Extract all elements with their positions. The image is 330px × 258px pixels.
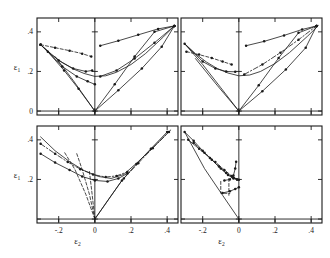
data-point <box>153 31 156 34</box>
data-point <box>81 52 84 55</box>
data-point <box>99 44 102 47</box>
y-tick-label: .4 <box>27 27 33 36</box>
data-point <box>91 69 94 72</box>
data-point <box>221 60 224 63</box>
data-point <box>243 73 246 76</box>
data-point <box>277 57 280 60</box>
data-point <box>115 175 118 178</box>
data-point <box>54 152 57 155</box>
series-dash-dot-right <box>244 26 316 75</box>
data-point <box>66 161 69 164</box>
x-tick-label: -.2 <box>55 226 63 235</box>
data-point <box>203 151 206 154</box>
y-axis-title-top: ε1 <box>14 62 21 73</box>
data-point <box>85 70 88 73</box>
x-tick-label: 0 <box>93 226 97 235</box>
data-point <box>39 152 42 155</box>
data-point <box>123 177 126 180</box>
data-point <box>117 177 120 180</box>
data-point <box>279 51 282 54</box>
panel-frame-D <box>181 126 322 223</box>
figure-svg: 0.2.4.2.4-.20.2.4-.20.2.4ε1ε1ε2ε2 <box>0 0 330 258</box>
series-flc-solid-upper <box>41 130 171 179</box>
y-tick-label: .2 <box>27 175 33 184</box>
data-point <box>39 43 42 46</box>
data-point <box>54 46 57 49</box>
data-point <box>230 63 233 66</box>
series-flc-descending <box>185 132 237 180</box>
panel-frame-C <box>37 126 178 223</box>
data-point <box>54 161 57 164</box>
data-point <box>238 110 241 113</box>
data-point <box>141 67 144 70</box>
data-point <box>173 25 176 28</box>
x-tick-label: .4 <box>308 226 314 235</box>
panel-curves-C <box>39 130 170 219</box>
data-point <box>221 192 224 195</box>
series-dashed-fan-2 <box>77 154 95 219</box>
y-tick-label: .4 <box>27 135 33 144</box>
y-axis-title-bottom: ε1 <box>14 170 21 181</box>
panel-frame-A <box>37 18 178 115</box>
data-point <box>285 68 288 71</box>
data-point <box>151 147 154 150</box>
data-point <box>90 55 93 58</box>
data-point <box>214 161 217 164</box>
panel-curves-A <box>39 25 175 113</box>
data-point <box>133 57 136 60</box>
y-tick-label: .2 <box>27 67 33 76</box>
data-point <box>168 131 171 134</box>
data-point <box>223 169 226 172</box>
data-point <box>301 28 304 31</box>
data-point <box>137 34 140 37</box>
data-point <box>234 71 237 74</box>
data-point <box>235 160 238 163</box>
panel-curves-B <box>183 25 318 113</box>
data-point <box>160 45 163 48</box>
data-point <box>137 162 140 165</box>
data-point <box>99 75 102 78</box>
series-lower-right-curve <box>100 26 174 76</box>
series-radial-ray-2 <box>195 59 238 111</box>
data-point <box>81 175 84 178</box>
panel-curves-D <box>183 131 240 219</box>
series-strain-path-1 <box>41 45 93 72</box>
data-point <box>79 168 82 171</box>
series-right-rising-dashdot <box>124 132 169 179</box>
x-tick-label: .2 <box>128 226 134 235</box>
data-point <box>198 53 201 56</box>
y-tick-label: 0 <box>29 107 33 116</box>
x-axis-title-right: ε2 <box>218 236 225 247</box>
series-radial-ray-right-2 <box>95 26 175 111</box>
data-point <box>238 186 241 189</box>
data-point <box>297 39 300 42</box>
data-point <box>192 142 195 145</box>
x-tick-label: -.2 <box>199 226 207 235</box>
data-point <box>113 83 116 86</box>
x-axis-title-left: ε2 <box>74 236 81 247</box>
data-point <box>304 46 307 49</box>
x-tick-label: .4 <box>164 226 170 235</box>
data-point <box>283 34 286 37</box>
series-radial-ray-1 <box>41 45 95 111</box>
figure-canvas: 0.2.4.2.4-.20.2.4-.20.2.4ε1ε1ε2ε2 <box>0 0 330 258</box>
data-point <box>232 174 235 177</box>
data-point <box>225 70 228 73</box>
data-point <box>263 40 266 43</box>
data-point <box>157 28 160 31</box>
series-radial-ray-right-1 <box>95 26 175 111</box>
x-tick-label: 0 <box>237 226 241 235</box>
data-point <box>234 188 237 191</box>
panel-B <box>181 18 322 115</box>
data-point <box>234 167 237 170</box>
series-flc-solid-left <box>41 26 175 76</box>
data-point <box>236 178 239 181</box>
data-point <box>210 57 213 60</box>
data-point <box>92 173 95 176</box>
data-point <box>261 90 264 93</box>
data-point <box>245 44 248 47</box>
data-point <box>94 110 97 113</box>
data-point <box>94 179 97 182</box>
data-point <box>153 41 156 44</box>
panel-A <box>37 18 178 115</box>
